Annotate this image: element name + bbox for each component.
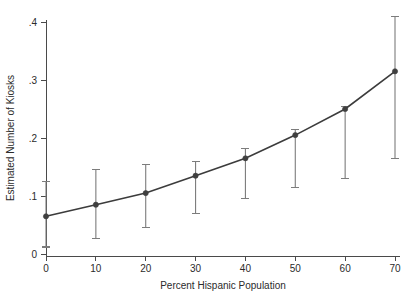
x-tick-label: 70 xyxy=(389,263,401,274)
y-tick-label: .2 xyxy=(29,133,38,144)
data-point-markers xyxy=(43,69,397,219)
x-tick-label: 30 xyxy=(190,263,202,274)
y-tick-label: 0 xyxy=(31,249,37,260)
data-point-marker xyxy=(243,156,248,161)
y-axis-ticks: 0.1.2.3.4 xyxy=(29,17,46,260)
data-point-marker xyxy=(193,173,198,178)
x-tick-label: 20 xyxy=(140,263,152,274)
kiosks-vs-hispanic-population-chart: 0.1.2.3.4 010203040506070 Percent Hispan… xyxy=(0,0,411,302)
fitted-line xyxy=(46,71,395,216)
data-point-marker xyxy=(293,133,298,138)
axes xyxy=(46,20,400,256)
y-tick-label: .3 xyxy=(29,75,38,86)
x-axis-title: Percent Hispanic Population xyxy=(160,280,286,291)
x-axis-ticks: 010203040506070 xyxy=(43,256,401,274)
x-tick-label: 40 xyxy=(240,263,252,274)
data-point-marker xyxy=(143,191,148,196)
y-axis-title: Estimated Number of Kiosks xyxy=(5,75,16,201)
error-bars xyxy=(42,16,399,247)
x-tick-label: 10 xyxy=(90,263,102,274)
data-point-marker xyxy=(43,214,48,219)
x-tick-label: 0 xyxy=(43,263,49,274)
chart-figure: 0.1.2.3.4 010203040506070 Percent Hispan… xyxy=(0,0,411,302)
x-tick-label: 60 xyxy=(340,263,352,274)
x-tick-label: 50 xyxy=(290,263,302,274)
data-point-marker xyxy=(392,69,397,74)
y-tick-label: .4 xyxy=(29,17,38,28)
y-tick-label: .1 xyxy=(29,191,38,202)
data-point-marker xyxy=(343,106,348,111)
data-point-marker xyxy=(93,202,98,207)
